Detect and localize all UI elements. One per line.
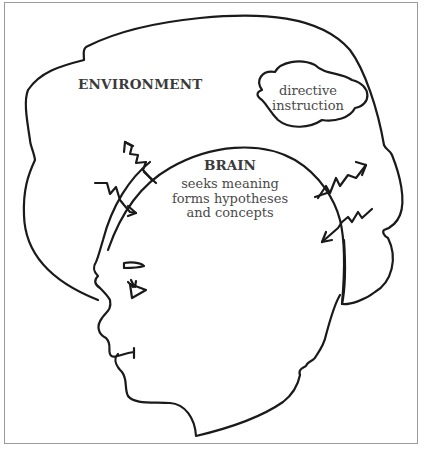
arrow-out-right — [315, 162, 366, 198]
arrow-in-left — [95, 183, 136, 216]
eye — [128, 280, 146, 298]
directive-cloud-text: directive instruction — [258, 84, 358, 113]
brain-label: BRAIN — [185, 158, 275, 173]
brain-line-3: and concepts — [160, 206, 300, 221]
diagram-canvas — [0, 0, 425, 451]
brain-line-1: seeks meaning — [160, 177, 300, 192]
arrow-out-upper-left — [124, 142, 156, 183]
directive-line-2: instruction — [258, 99, 358, 114]
environment-label: ENVIRONMENT — [78, 77, 203, 92]
brain-description: seeks meaning forms hypotheses and conce… — [160, 177, 300, 221]
brain-line-2: forms hypotheses — [160, 192, 300, 207]
eyebrow — [124, 262, 144, 268]
directive-line-1: directive — [258, 84, 358, 99]
arrow-in-right — [322, 209, 372, 242]
